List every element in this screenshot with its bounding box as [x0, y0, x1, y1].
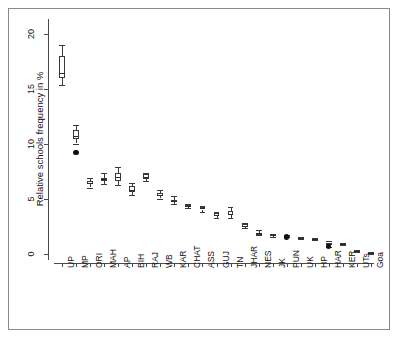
y-axis-tick [44, 144, 49, 145]
median-line [270, 235, 276, 236]
median-line [59, 73, 65, 74]
x-axis-tick-label: UK [305, 257, 315, 269]
x-axis-tick-label: KAR [178, 251, 188, 268]
whisker-cap-lower [101, 184, 107, 185]
y-axis-tick [44, 199, 49, 200]
x-axis-tick-label: KER [347, 251, 357, 268]
whisker-cap-lower [115, 185, 121, 186]
x-axis-tick-label: AP [122, 257, 132, 268]
median-line [256, 233, 262, 234]
x-axis-tick [76, 263, 77, 267]
x-axis-tick-label: MAH [108, 249, 118, 268]
x-axis-tick-label: ORI [94, 253, 104, 268]
x-axis-tick-label: Goa [375, 252, 385, 268]
whisker-cap-lower [312, 240, 318, 241]
x-axis-tick-label: HAR [333, 250, 343, 268]
y-axis-tick-label: 15 [25, 79, 37, 99]
x-axis-tick-label: CHAT [192, 246, 202, 269]
whisker-cap-lower [340, 245, 346, 246]
median-line [73, 136, 79, 137]
x-axis-tick [343, 263, 344, 267]
whisker-cap-upper [129, 183, 135, 184]
y-axis-tick [44, 34, 49, 35]
median-line [354, 251, 360, 252]
whisker-cap-upper [171, 196, 177, 197]
whisker-cap-upper [73, 125, 79, 126]
x-axis-tick [188, 263, 189, 267]
x-axis-tick [146, 263, 147, 267]
x-axis-tick-label: HP [319, 257, 329, 269]
y-axis-line [48, 19, 49, 259]
x-axis-tick-label: PUN [291, 250, 301, 268]
whisker-cap-lower [256, 235, 262, 236]
x-axis-tick-label: NES [263, 251, 273, 268]
x-axis-tick [62, 263, 63, 267]
median-line [312, 239, 318, 240]
median-line [228, 214, 234, 215]
box-iqr [73, 130, 79, 139]
figure-container: Relative schools frequency in % 05101520… [0, 0, 400, 340]
whisker-cap-lower [59, 85, 65, 86]
x-axis-tick [202, 263, 203, 267]
whisker-cap-lower [185, 208, 191, 209]
x-axis-tick [217, 263, 218, 267]
median-line [87, 183, 93, 184]
whisker-cap-upper [256, 230, 262, 231]
x-axis-tick-label: JK [277, 258, 287, 268]
whisker-cap-lower [200, 212, 206, 213]
outlier-point [284, 234, 289, 239]
x-axis-tick [118, 263, 119, 267]
plot-area: Relative schools frequency in % 05101520… [0, 0, 400, 340]
x-axis-tick [104, 263, 105, 267]
y-axis-tick [44, 89, 49, 90]
outlier-point [73, 150, 78, 155]
x-axis-tick-label: ASS [206, 251, 216, 268]
whisker-cap-upper [115, 167, 121, 168]
whisker-cap-lower [157, 199, 163, 200]
whisker-cap-upper [59, 45, 65, 46]
y-axis-tick [44, 254, 49, 255]
x-axis-tick [90, 263, 91, 267]
median-line [368, 253, 374, 254]
x-axis-tick [174, 263, 175, 267]
whisker-cap-lower [73, 144, 79, 145]
x-axis-tick-label: BIH [136, 254, 146, 268]
x-axis-tick-label: JHAR [249, 246, 259, 268]
whisker-cap-lower [242, 228, 248, 229]
whisker-cap-upper [87, 178, 93, 179]
whisker-cap-upper [101, 173, 107, 174]
y-axis-tick-label: 0 [25, 244, 37, 264]
median-line [129, 190, 135, 191]
x-axis-tick-label: MP [80, 256, 90, 269]
x-axis-tick [273, 263, 274, 267]
x-axis-tick [301, 263, 302, 267]
outlier-point [326, 244, 331, 249]
whisker-cap-upper [228, 207, 234, 208]
median-line [200, 208, 206, 209]
median-line [115, 177, 121, 178]
whisker-cap-lower [214, 218, 220, 219]
median-line [214, 215, 220, 216]
median-line [143, 177, 149, 178]
whisker-upper [62, 45, 63, 56]
y-axis-tick-label: 20 [25, 24, 37, 44]
box-iqr [59, 56, 65, 78]
x-axis-tick-label: UTs [361, 254, 371, 269]
whisker-cap-lower [129, 195, 135, 196]
whisker-cap-lower [143, 181, 149, 182]
y-axis-tick-label: 10 [25, 134, 37, 154]
x-axis-tick [231, 263, 232, 267]
median-line [242, 226, 248, 227]
x-axis-tick-label: WB [164, 255, 174, 269]
x-axis-tick-label: TN [235, 257, 245, 268]
whisker-cap-lower [171, 204, 177, 205]
median-line [340, 244, 346, 245]
whisker-cap-lower [354, 252, 360, 253]
x-axis-tick-label: GUJ [221, 251, 231, 268]
x-axis-tick-label: UP [66, 257, 76, 269]
median-line [101, 179, 107, 180]
x-axis-tick [245, 263, 246, 267]
median-line [157, 195, 163, 196]
whisker-cap-upper [157, 190, 163, 191]
x-axis-tick [287, 263, 288, 267]
